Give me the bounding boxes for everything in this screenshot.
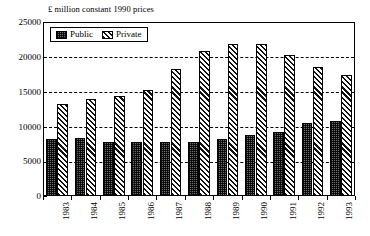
x-tick-mark [298,196,299,200]
bar-chart: £ million constant 1990 prices 25000 200… [0,0,370,236]
x-tick-mark [355,196,356,200]
x-tick-label-1983: 1983 [62,202,71,220]
chart-legend: Public Private [50,27,148,42]
x-tick-label-1986: 1986 [147,202,156,220]
x-tick-label-1993: 1993 [345,202,354,220]
x-tick-mark-origin [43,196,44,200]
x-tick-label-1985: 1985 [118,202,127,220]
x-tick-mark [270,196,271,200]
x-tick-label-1989: 1989 [232,202,241,220]
x-tick-mark [71,196,72,200]
legend-entry-public: Public [56,30,93,39]
legend-swatch-public-icon [56,31,67,39]
legend-swatch-private-icon [102,31,113,39]
x-tick-mark [242,196,243,200]
x-tick-mark [213,196,214,200]
x-tick-mark [156,196,157,200]
x-tick-mark [100,196,101,200]
x-tick-label-1990: 1990 [260,202,269,220]
legend-label-public: Public [70,30,93,39]
x-tick-mark [128,196,129,200]
x-tick-label-1984: 1984 [90,202,99,220]
x-tick-label-1988: 1988 [204,202,213,220]
x-tick-label-1991: 1991 [289,202,298,220]
x-tick-label-1992: 1992 [317,202,326,220]
legend-label-private: Private [116,30,142,39]
x-tick-mark [327,196,328,200]
legend-entry-private: Private [102,30,142,39]
x-tick-mark [185,196,186,200]
x-tick-label-1987: 1987 [175,202,184,220]
